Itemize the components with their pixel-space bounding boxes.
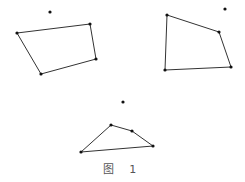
polygon-outline (81, 125, 153, 152)
outside-point (121, 100, 124, 103)
vertex-point (151, 144, 154, 147)
outside-point (223, 7, 226, 10)
vertex-point (130, 129, 133, 132)
vertex-point (163, 68, 166, 71)
figure-canvas (0, 0, 245, 182)
vertex-point (217, 30, 220, 33)
right-quadrilateral (163, 7, 232, 71)
vertex-point (94, 57, 97, 60)
left-quadrilateral (15, 10, 97, 75)
vertex-point (165, 13, 168, 16)
figure-caption: 图 1 (0, 160, 245, 176)
vertex-point (88, 22, 91, 25)
vertex-point (229, 65, 232, 68)
vertex-point (79, 150, 82, 153)
polygon-outline (17, 24, 96, 74)
vertex-point (39, 72, 42, 75)
vertex-point (109, 123, 112, 126)
vertex-point (15, 31, 18, 34)
polygon-outline (165, 15, 231, 70)
outside-point (48, 10, 51, 13)
bottom-quadrilateral (79, 100, 154, 153)
